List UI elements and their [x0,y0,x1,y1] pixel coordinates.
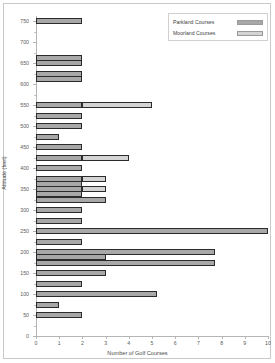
y-tick-label: 700 [5,39,29,45]
bar-group [36,239,268,245]
bar-segment-moorland [82,155,128,161]
x-tick-label: 10 [260,340,275,346]
x-tick-label: 2 [74,340,90,346]
bar-group [36,270,268,276]
x-tick-mark [59,336,60,339]
legend: Parkland Courses Moorland Courses [168,13,268,41]
y-tick-label: 600 [5,81,29,87]
bar-segment-parkland [36,260,215,266]
bar-group [36,291,268,297]
x-tick-mark [222,336,223,339]
bar-group [36,144,268,150]
bar-group [36,281,268,287]
legend-item-parkland: Parkland Courses [173,18,265,27]
x-tick-label: 5 [144,340,160,346]
bar-segment-parkland [36,60,82,66]
bar-segment-parkland [36,281,82,287]
bar-segment-parkland [36,228,268,234]
bar-group [36,102,268,108]
x-tick-label: 4 [121,340,137,346]
bar-segment-parkland [36,302,59,308]
legend-swatch-moorland [237,31,263,36]
x-tick-mark [268,336,269,339]
bar-group [36,218,268,224]
x-tick-label: 7 [190,340,206,346]
x-tick-mark [198,336,199,339]
y-tick-label: 200 [5,249,29,255]
bar-segment-parkland [36,102,82,108]
x-tick-mark [245,336,246,339]
bar-group [36,207,268,213]
bar-group [36,228,268,234]
bar-segment-parkland [36,165,82,171]
bar-segment-parkland [36,134,59,140]
bar-group [36,76,268,82]
bar-group [36,197,268,203]
chart-container: 0501001502002503003504004505005506006507… [0,0,275,363]
bar-segment-parkland [36,76,82,82]
bar-group [36,302,268,308]
bar-segment-parkland [36,239,82,245]
x-tick-mark [82,336,83,339]
y-tick-label: 50 [5,312,29,318]
bar-group [36,260,268,266]
y-tick-label: 250 [5,228,29,234]
x-tick-mark [129,336,130,339]
y-tick-label: 550 [5,102,29,108]
bar-segment-parkland [36,113,82,119]
y-tick-label: 400 [5,165,29,171]
bar-segment-parkland [36,218,82,224]
bar-group [36,165,268,171]
x-tick-label: 6 [167,340,183,346]
plot-area [36,16,268,336]
legend-label-parkland: Parkland Courses [173,18,214,27]
x-tick-label: 3 [98,340,114,346]
x-axis-title: Number of Golf Courses [0,350,275,356]
bar-segment-parkland [36,270,106,276]
bar-segment-parkland [36,207,82,213]
y-axis-title: Altitude (feet) [1,113,7,233]
x-tick-mark [36,336,37,339]
bar-segment-parkland [36,144,82,150]
x-tick-label: 9 [237,340,253,346]
legend-swatch-parkland [237,20,263,25]
bar-group [36,155,268,161]
legend-label-moorland: Moorland Courses [173,29,215,38]
x-tick-mark [152,336,153,339]
x-tick-mark [106,336,107,339]
y-tick-label: 300 [5,207,29,213]
y-tick-label: 500 [5,123,29,129]
bar-group [36,113,268,119]
x-tick-label: 0 [28,340,44,346]
x-tick-label: 8 [214,340,230,346]
bar-segment-moorland [82,102,152,108]
y-tick-label: 0 [5,333,29,339]
bar-segment-parkland [36,312,82,318]
y-tick-label: 350 [5,186,29,192]
y-tick-label: 150 [5,270,29,276]
y-tick-label: 750 [5,18,29,24]
y-tick-label: 100 [5,291,29,297]
bar-segment-parkland [36,123,82,129]
bar-group [36,312,268,318]
bar-group [36,60,268,66]
y-tick-label: 450 [5,144,29,150]
legend-item-moorland: Moorland Courses [173,29,265,38]
bar-segment-parkland [36,155,82,161]
bar-group [36,134,268,140]
x-tick-mark [175,336,176,339]
bar-group [36,123,268,129]
bar-segment-parkland [36,291,157,297]
bar-segment-parkland [36,18,82,24]
y-tick-label: 650 [5,60,29,66]
x-tick-label: 1 [51,340,67,346]
bar-segment-parkland [36,197,106,203]
